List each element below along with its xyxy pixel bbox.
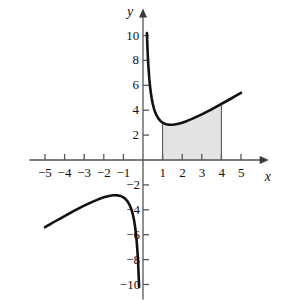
x-tick-label: 2 [179,166,186,179]
x-tick-label: 3 [199,166,206,179]
y-tick-label: 6 [133,78,140,91]
shaded-area-under-curve [163,104,222,160]
y-tick-label: 4 [133,103,140,116]
y-axis-label: y [127,5,133,19]
y-tick-label: −6 [126,228,140,241]
y-tick-label: 2 [133,128,140,141]
x-tick-label: 1 [160,166,167,179]
x-tick-label: −5 [38,166,52,179]
x-tick-label: −4 [58,166,72,179]
x-axis-label: x [265,170,271,184]
y-tick-label: 10 [126,29,139,42]
y-axis-arrowhead [139,9,147,18]
y-tick-label: −2 [126,178,140,191]
x-tick-label: 5 [238,166,245,179]
y-tick-label: −4 [126,203,140,216]
y-tick-label: −10 [120,278,140,291]
x-tick-label: 4 [218,166,225,179]
y-tick-label: −8 [126,253,140,266]
plot-canvas [0,0,292,300]
curve-left-branch [45,195,139,287]
x-tick-label: −2 [97,166,111,179]
figure-graph-of-x-plus-two-over-x: y x −5−4−3−2−112345−10−8−6−4−2246810 [0,0,292,300]
curve-right-branch [147,33,241,125]
x-tick-label: −3 [77,166,91,179]
x-axis-arrowhead [260,156,269,164]
y-tick-label: 8 [133,53,140,66]
